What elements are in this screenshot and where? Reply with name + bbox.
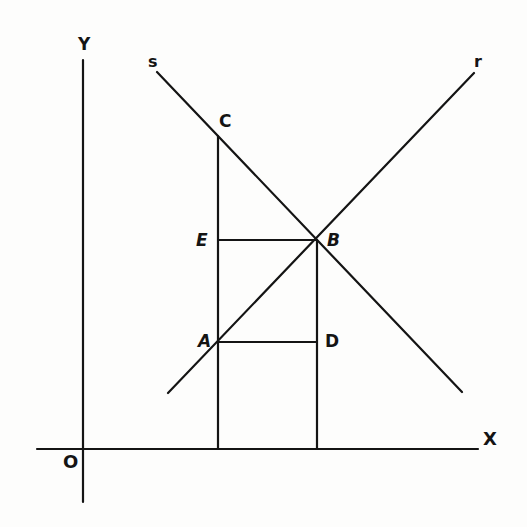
point-c-label: C	[219, 113, 231, 130]
point-d-label: D	[325, 333, 339, 350]
figure-lines	[0, 0, 527, 527]
line-r-label: r	[474, 54, 482, 70]
y-axis-label: Y	[78, 36, 90, 53]
line-s-label: s	[148, 54, 158, 70]
point-e-label: E	[196, 232, 208, 249]
point-b-label: B	[327, 232, 340, 249]
point-a-label: A	[198, 333, 211, 350]
origin-label: O	[63, 453, 78, 471]
x-axis-label: X	[483, 430, 497, 448]
figure-canvas: Y X O s r C E B A D	[0, 0, 527, 527]
line-r	[168, 73, 474, 393]
